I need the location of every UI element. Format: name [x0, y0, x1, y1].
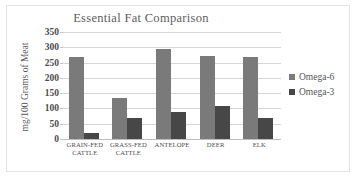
x-axis-category-label-line: CATTLE	[72, 149, 97, 156]
x-axis-category-label: ELK	[237, 141, 281, 149]
legend-swatch-icon	[289, 89, 295, 95]
bar-omega-6-elk[interactable]	[243, 57, 258, 139]
bar-omega-6-grain-fed-cattle[interactable]	[69, 57, 84, 139]
legend-label: Omega-6	[299, 72, 334, 82]
chart-title: Essential Fat Comparison	[7, 11, 275, 26]
x-axis-category-label-line: GRAIN-FED	[67, 141, 103, 148]
bar-omega-6-antelope[interactable]	[156, 49, 171, 139]
y-axis-tick-label: 200	[45, 73, 59, 83]
plot-area: 050100150200250300350	[63, 32, 281, 139]
chart-legend: Omega-6Omega-3	[289, 70, 334, 100]
y-axis-tick-label: 100	[45, 103, 59, 113]
chart-frame: Essential Fat Comparison mg/100 Grams of…	[6, 5, 350, 172]
bar-omega-3-antelope[interactable]	[171, 112, 186, 140]
y-axis-title: mg/100 Grams of Meat	[20, 28, 30, 146]
y-axis-tick-label: 350	[45, 27, 59, 37]
y-axis-tick-label: 50	[50, 119, 60, 129]
x-axis-category-label-line: DEER	[207, 141, 225, 148]
y-axis-tick-label: 300	[45, 42, 59, 52]
gridline	[63, 139, 281, 140]
y-axis-tick-mark	[60, 139, 63, 140]
bar-omega-6-grass-fed-cattle[interactable]	[112, 98, 127, 139]
bar-omega-3-deer[interactable]	[215, 106, 230, 139]
x-axis-category-label-line: CATTLE	[116, 149, 141, 156]
bar-group	[237, 32, 281, 139]
legend-item-omega-3[interactable]: Omega-3	[289, 85, 334, 98]
y-axis-tick-label: 150	[45, 88, 59, 98]
bar-omega-3-grass-fed-cattle[interactable]	[127, 118, 142, 139]
bar-group	[194, 32, 238, 139]
bar-group	[150, 32, 194, 139]
bar-omega-6-deer[interactable]	[200, 56, 215, 139]
legend-item-omega-6[interactable]: Omega-6	[289, 70, 334, 83]
y-axis-tick-label: 0	[54, 134, 59, 144]
bar-omega-3-grain-fed-cattle[interactable]	[84, 133, 99, 139]
x-axis-category-label: DEER	[194, 141, 238, 149]
x-axis-category-label-line: ANTELOPE	[155, 141, 190, 148]
y-axis-tick-label: 250	[45, 58, 59, 68]
bar-omega-3-elk[interactable]	[258, 118, 273, 139]
x-axis-category-label: ANTELOPE	[150, 141, 194, 149]
x-axis-category-label: GRAIN-FEDCATTLE	[63, 141, 107, 157]
x-axis-category-labels: GRAIN-FEDCATTLEGRASS-FEDCATTLEANTELOPEDE…	[63, 141, 281, 169]
legend-label: Omega-3	[299, 87, 334, 97]
legend-swatch-icon	[289, 74, 295, 80]
x-axis-category-label: GRASS-FEDCATTLE	[107, 141, 151, 157]
bar-group	[63, 32, 107, 139]
x-axis-category-label-line: GRASS-FED	[110, 141, 147, 148]
bar-group	[107, 32, 151, 139]
bars-layer	[63, 32, 281, 139]
x-axis-category-label-line: ELK	[253, 141, 266, 148]
